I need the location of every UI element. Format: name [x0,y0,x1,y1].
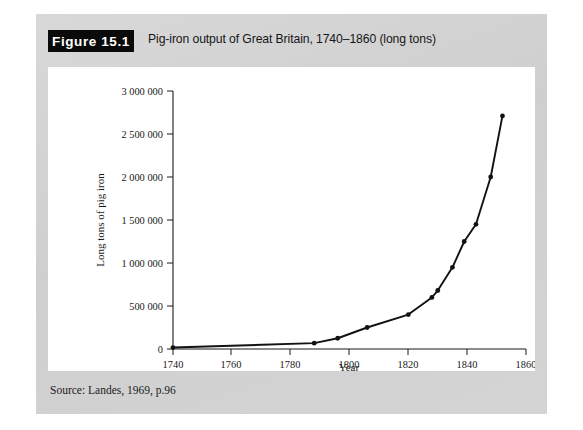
y-tick-label-1500000: 1 500 000 [121,215,163,226]
chart-panel: 0 500 000 1 000 000 1 500 000 2 000 000 … [48,67,535,371]
x-tick-label-1860: 1860 [516,359,535,370]
y-axis-ticks [167,91,173,349]
data-point [435,288,440,293]
data-line-pig-iron [173,116,502,348]
data-point [406,312,411,317]
data-point [462,239,467,244]
data-point [500,114,505,119]
data-point [335,336,340,341]
data-point [312,341,317,346]
x-tick-label-1780: 1780 [280,359,301,370]
data-point [488,175,493,180]
figure-number-label: Figure 15.1 [52,34,130,49]
data-point [171,345,176,350]
x-tick-label-1840: 1840 [457,359,478,370]
y-axis-title: Long tons of pig iron [94,173,106,267]
x-axis-ticks [173,349,526,355]
figure-caption: Pig-iron output of Great Britain, 1740–1… [148,32,436,46]
x-axis-title: Year [339,361,360,371]
y-tick-label-3000000: 3 000 000 [121,86,163,97]
data-points-group [171,114,505,350]
y-axis-tick-labels: 0 500 000 1 000 000 1 500 000 2 000 000 … [121,86,163,355]
figure-container: Figure 15.1 Pig-iron output of Great Bri… [36,14,547,414]
figure-root: Figure 15.1 Pig-iron output of Great Bri… [0,0,583,430]
y-tick-label-2500000: 2 500 000 [121,129,163,140]
y-tick-label-500000: 500 000 [129,301,163,312]
chart-svg: 0 500 000 1 000 000 1 500 000 2 000 000 … [48,67,535,371]
data-point [474,222,479,227]
data-point [450,265,455,270]
source-citation: Source: Landes, 1969, p.96 [50,384,176,396]
y-tick-label-1000000: 1 000 000 [121,258,163,269]
x-tick-label-1820: 1820 [398,359,419,370]
x-tick-label-1760: 1760 [221,359,242,370]
data-point [429,295,434,300]
y-tick-label-0: 0 [158,344,163,355]
figure-number-banner: Figure 15.1 [48,30,134,52]
x-tick-label-1740: 1740 [163,359,184,370]
data-point [365,325,370,330]
y-tick-label-2000000: 2 000 000 [121,172,163,183]
